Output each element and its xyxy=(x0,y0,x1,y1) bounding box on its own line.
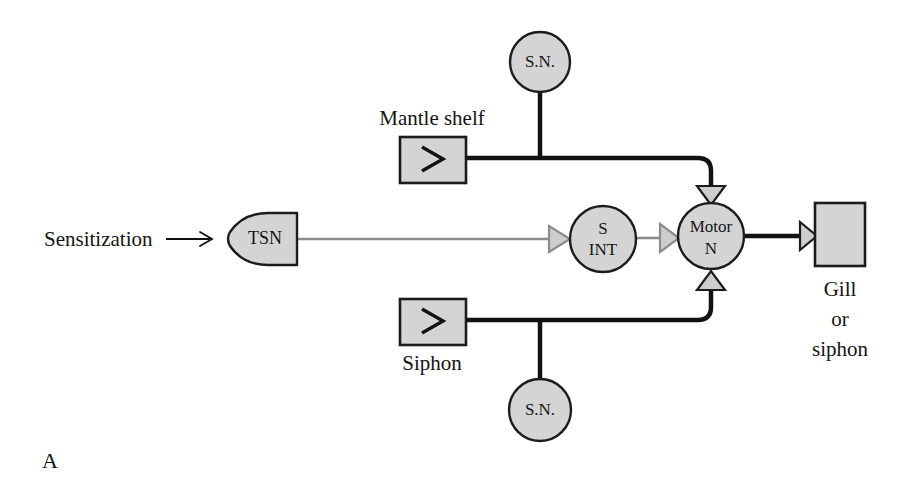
s-int-label-line2: INT xyxy=(589,240,618,259)
s-int-label-line1: S xyxy=(598,219,607,238)
effector-box xyxy=(815,203,865,266)
siphon-receptor-box xyxy=(400,299,466,345)
figure-canvas: S.N. S.N. TSN S INT xyxy=(0,0,920,491)
mantle-shelf-label: Mantle shelf xyxy=(379,106,485,130)
node-tsn[interactable]: TSN xyxy=(228,213,297,265)
sensitization-input: Sensitization xyxy=(44,227,212,251)
panel-letter: A xyxy=(42,448,58,473)
node-sn-top[interactable]: S.N. xyxy=(510,32,570,92)
sn-top-label: S.N. xyxy=(525,52,555,71)
siphon-label: Siphon xyxy=(402,351,462,375)
node-effector[interactable] xyxy=(815,203,865,266)
mantle-shelf-receptor-box xyxy=(400,137,466,183)
node-s-int[interactable]: S INT xyxy=(570,206,636,272)
tsn-label: TSN xyxy=(248,228,282,248)
node-sn-bottom[interactable]: S.N. xyxy=(509,379,571,441)
synapse-marker-tsn-to-sint xyxy=(549,226,570,252)
sensitization-label: Sensitization xyxy=(44,227,153,251)
neural-circuit-diagram: S.N. S.N. TSN S INT xyxy=(0,0,920,491)
effector-label-line2: or xyxy=(831,307,849,331)
synapse-marker-sint-to-motor xyxy=(660,224,679,252)
node-motor-n[interactable]: Motor N xyxy=(678,203,744,269)
mantle-shelf-axon-path xyxy=(452,158,711,186)
sn-bottom-label: S.N. xyxy=(525,400,555,419)
motor-n-label-line2: N xyxy=(705,239,717,258)
siphon-axon-path xyxy=(452,290,711,320)
node-siphon-receptor[interactable] xyxy=(400,299,466,345)
effector-label-line1: Gill xyxy=(824,277,857,301)
synapse-marker-siphon-to-motor xyxy=(697,271,725,290)
node-mantle-shelf-receptor[interactable] xyxy=(400,137,466,183)
motor-n-label-line1: Motor xyxy=(690,217,733,236)
motor-n-circle xyxy=(678,203,744,269)
effector-label-line3: siphon xyxy=(812,337,869,361)
